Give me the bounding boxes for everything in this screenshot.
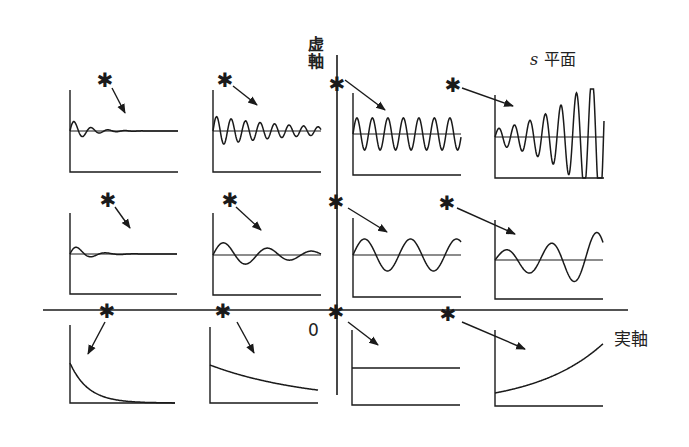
- response-curve: [70, 363, 175, 403]
- response-plot-r3c4: [495, 330, 603, 406]
- pole-marker-icon: ✱: [440, 302, 457, 326]
- pole-marker-icon: ✱: [100, 188, 117, 212]
- arrow-icon: [462, 88, 513, 106]
- arrow-icon: [457, 208, 515, 234]
- response-plot-r3c2: [210, 327, 318, 403]
- pole-marker-icon: ✱: [439, 191, 456, 215]
- response-curve: [495, 89, 604, 178]
- plot-axes: [213, 213, 321, 295]
- response-curve: [495, 344, 603, 393]
- pole-markers: ✱✱✱✱✱✱✱✱✱✱✱✱: [88, 68, 525, 354]
- pole-r1c4: ✱: [445, 73, 513, 106]
- pole-r1c2: ✱: [217, 68, 257, 105]
- pole-marker-icon: ✱: [328, 190, 345, 214]
- s-plane-word: 平面: [544, 50, 576, 69]
- response-plot-r2c2: [213, 213, 321, 295]
- response-plot-r1c2: [213, 90, 321, 172]
- pole-marker-icon: ✱: [329, 72, 346, 96]
- pole-r2c4: ✱: [439, 191, 515, 234]
- pole-r3c2: ✱: [215, 299, 254, 353]
- pole-marker-icon: ✱: [99, 299, 116, 323]
- arrow-icon: [115, 207, 130, 228]
- arrow-icon: [462, 322, 525, 349]
- s-plane-label: s平面: [530, 46, 576, 70]
- pole-r3c4: ✱: [440, 302, 525, 349]
- pole-r3c1: ✱: [88, 299, 115, 354]
- arrow-icon: [237, 322, 254, 353]
- pole-r2c2: ✱: [222, 188, 261, 230]
- s-symbol: s: [530, 50, 538, 69]
- response-plot-r1c4: [495, 89, 604, 178]
- pole-r1c1: ✱: [97, 68, 125, 113]
- response-curve: [213, 117, 321, 145]
- complex-plane-axes: [43, 55, 628, 395]
- arrow-icon: [112, 88, 125, 113]
- arrow-icon: [345, 80, 385, 110]
- s-plane-diagram: ✱✱✱✱✱✱✱✱✱✱✱✱: [0, 0, 689, 447]
- arrow-icon: [348, 208, 387, 232]
- plot-axes: [495, 330, 603, 406]
- response-plot-r2c3: [353, 218, 461, 297]
- response-plot-r3c1: [70, 325, 175, 403]
- pole-r2c1: ✱: [100, 188, 130, 228]
- response-curve: [495, 233, 603, 282]
- pole-marker-icon: ✱: [215, 299, 232, 323]
- arrow-icon: [236, 207, 261, 230]
- pole-marker-icon: ✱: [222, 188, 239, 212]
- response-curve: [210, 365, 318, 390]
- pole-marker-icon: ✱: [328, 300, 345, 324]
- origin-label: 0: [308, 320, 319, 340]
- pole-marker-icon: ✱: [445, 73, 462, 97]
- plot-axes: [70, 325, 175, 403]
- plot-axes: [210, 327, 318, 403]
- response-plot-r1c1: [70, 90, 178, 172]
- response-curve: [213, 243, 321, 264]
- response-plot-r2c1: [70, 213, 177, 294]
- response-curve: [70, 247, 177, 256]
- response-plot-r3c3: [352, 330, 460, 405]
- imaginary-axis-label: 虚軸: [305, 36, 323, 70]
- arrow-icon: [233, 86, 257, 105]
- pole-marker-icon: ✱: [217, 68, 234, 92]
- pole-marker-icon: ✱: [97, 68, 114, 92]
- pole-r3c3: ✱: [328, 300, 378, 345]
- response-curve: [70, 122, 178, 137]
- real-axis-label: 実軸: [614, 325, 648, 350]
- plot-axes: [353, 218, 461, 297]
- arrow-icon: [88, 322, 105, 354]
- response-plot-r1c3: [353, 93, 461, 175]
